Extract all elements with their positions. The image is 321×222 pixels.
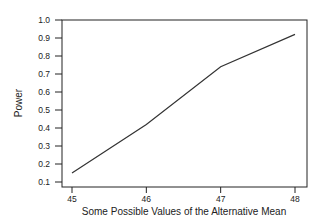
y-tick-label: 0.1 [38,177,50,187]
power-curve-chart: 0.10.20.30.40.50.60.70.80.91.0 45464748 … [0,0,321,222]
x-tick-label: 46 [142,194,152,204]
x-tick-label: 45 [67,194,77,204]
x-axis-ticks: 45464748 [67,187,300,204]
x-tick-label: 48 [290,194,300,204]
y-tick-label: 0.8 [38,51,50,61]
y-tick-label: 0.6 [38,87,50,97]
y-axis-title: Power [13,88,24,117]
y-tick-label: 0.7 [38,69,50,79]
power-line [72,34,295,173]
y-tick-label: 0.2 [38,159,50,169]
x-axis-title: Some Possible Values of the Alternative … [82,206,286,217]
y-tick-label: 0.5 [38,105,50,115]
y-tick-label: 0.4 [38,123,50,133]
x-tick-label: 47 [216,194,226,204]
y-tick-label: 0.9 [38,33,50,43]
y-tick-label: 0.3 [38,141,50,151]
y-axis-ticks: 0.10.20.30.40.50.60.70.80.91.0 [38,15,62,187]
y-tick-label: 1.0 [38,15,50,25]
